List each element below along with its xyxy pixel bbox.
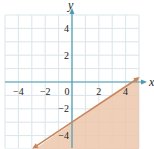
y-tick-label: −4	[58, 130, 69, 141]
y-tick-label: 4	[64, 23, 69, 34]
x-axis-label: x	[148, 75, 154, 89]
x-tick-label: −4	[13, 86, 24, 97]
y-tick-label: 2	[64, 50, 69, 61]
x-tick-label: 2	[96, 86, 101, 97]
x-tick-label: −2	[40, 86, 51, 97]
y-tick-label: −2	[58, 103, 69, 114]
graph: −4−202442−2−4 x y	[0, 0, 154, 149]
y-axis-label: y	[67, 0, 74, 12]
x-axis-arrow-icon	[141, 80, 147, 85]
x-tick-label: 0	[65, 86, 70, 97]
x-tick-label: 4	[123, 86, 128, 97]
